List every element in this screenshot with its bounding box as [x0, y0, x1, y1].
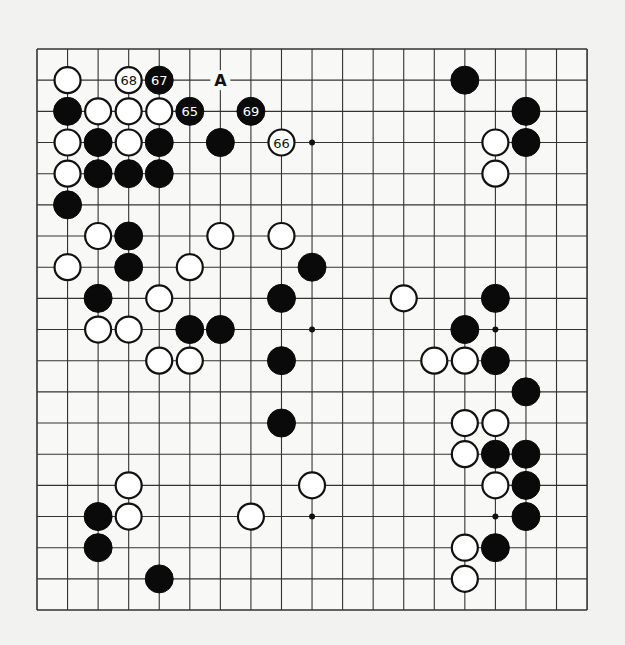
white-stone: [452, 410, 478, 436]
white-stone: [299, 472, 325, 498]
black-stone: [84, 284, 112, 312]
white-stone: 66: [268, 130, 294, 156]
white-stone: [452, 566, 478, 592]
black-stone: 67: [145, 66, 173, 94]
white-stone: [55, 254, 81, 280]
white-stone: [452, 348, 478, 374]
white-stone: [482, 472, 508, 498]
white-stone: [391, 285, 417, 311]
white-stone: [452, 441, 478, 467]
black-stone: [481, 440, 509, 468]
move-number: 68: [120, 73, 137, 88]
star-point: [309, 140, 315, 146]
black-stone: [206, 129, 234, 157]
black-stone: 65: [176, 97, 204, 125]
black-stone: [176, 316, 204, 344]
black-stone: [451, 316, 479, 344]
white-stone: [116, 98, 142, 124]
move-number: 69: [243, 104, 260, 119]
star-point: [309, 514, 315, 520]
star-point: [492, 514, 498, 520]
white-stone: [85, 317, 111, 343]
move-number: 65: [182, 104, 199, 119]
white-stone: [177, 254, 203, 280]
white-stone: [482, 130, 508, 156]
move-number: 67: [151, 73, 168, 88]
white-stone: [116, 472, 142, 498]
go-board: A 6867656966: [0, 0, 625, 645]
black-stone: 69: [237, 97, 265, 125]
black-stone: [115, 253, 143, 281]
black-stone: [512, 97, 540, 125]
black-stone: [145, 565, 173, 593]
black-stone: [267, 347, 295, 375]
white-stone: [116, 130, 142, 156]
white-stone: [85, 223, 111, 249]
black-stone: [481, 534, 509, 562]
black-stone: [481, 347, 509, 375]
white-stone: [207, 223, 233, 249]
black-stone: [512, 503, 540, 531]
black-stone: [267, 409, 295, 437]
marker-label: A: [214, 71, 227, 90]
white-stone: [482, 410, 508, 436]
black-stone: [298, 253, 326, 281]
white-stone: [116, 317, 142, 343]
black-stone: [84, 160, 112, 188]
white-stone: [55, 130, 81, 156]
white-stone: [177, 348, 203, 374]
white-stone: [452, 535, 478, 561]
black-stone: [115, 160, 143, 188]
black-stone: [84, 503, 112, 531]
white-stone: [421, 348, 447, 374]
star-point: [309, 327, 315, 333]
white-stone: [268, 223, 294, 249]
white-stone: [55, 67, 81, 93]
white-stone: [146, 348, 172, 374]
black-stone: [115, 222, 143, 250]
black-stone: [84, 129, 112, 157]
board-label-marker: A: [210, 70, 230, 90]
white-stone: [116, 504, 142, 530]
white-stone: [238, 504, 264, 530]
white-stone: [482, 161, 508, 187]
black-stone: [512, 471, 540, 499]
black-stone: [512, 440, 540, 468]
black-stone: [481, 284, 509, 312]
star-point: [492, 327, 498, 333]
white-stone: [146, 285, 172, 311]
black-stone: [54, 97, 82, 125]
black-stone: [206, 316, 234, 344]
white-stone: [85, 98, 111, 124]
white-stone: 68: [116, 67, 142, 93]
move-number: 66: [273, 136, 290, 151]
white-stone: [55, 161, 81, 187]
black-stone: [84, 534, 112, 562]
board-markers: A: [210, 70, 230, 90]
black-stone: [512, 129, 540, 157]
black-stone: [54, 191, 82, 219]
black-stone: [512, 378, 540, 406]
white-stone: [146, 98, 172, 124]
black-stone: [451, 66, 479, 94]
black-stone: [267, 284, 295, 312]
black-stone: [145, 160, 173, 188]
black-stone: [145, 129, 173, 157]
